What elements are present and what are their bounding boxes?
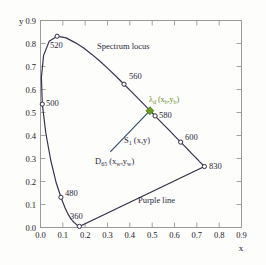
x-tick-label: 0.8 [214,230,225,240]
dominant-wavelength-label: λd (xb,yb) [149,95,180,105]
marker-580 [153,114,157,118]
d-coords-close: ) [131,156,134,166]
x-axis-ticks-top [63,21,219,26]
marker-520 [55,34,59,38]
y-tick-label: 0.6 [25,85,36,95]
x-tick-label: 0.0 [35,230,46,240]
lambda-coords-open: (x [158,95,165,104]
chart-canvas: 0.0 0.1 0.2 0.3 0.4 0.5 0.6 0.7 0.8 0.9 … [0,0,266,265]
y-tick-label: 0.3 [25,154,36,164]
x-tick-label: 0.6 [169,230,180,240]
x-tick-label: 0.2 [80,230,91,240]
marker-600 [179,140,183,144]
marker-480 [59,195,63,199]
y-tick-labels: 0.0 0.1 0.2 0.3 0.4 0.5 0.6 0.7 0.8 0.9 [25,16,36,233]
y-axis-title: y [19,16,24,26]
y-tick-label: 0.7 [25,62,36,72]
svg-text:D65 (xw,yw): D65 (xw,yw) [95,156,134,167]
svg-text:S1 (x,y): S1 (x,y) [124,135,150,146]
x-tick-label: 0.1 [57,230,68,240]
y-tick-label: 0.5 [25,108,36,118]
wavelength-label-600: 600 [185,132,198,142]
x-tick-label: 0.7 [191,230,202,240]
svg-text:λd (xb,yb): λd (xb,yb) [149,95,180,105]
x-axis-ticks [41,223,242,228]
wavelength-label-360: 360 [70,211,83,221]
s-coords: (x,y) [134,135,150,145]
locus-markers [40,34,206,228]
y-tick-label: 0.2 [25,177,36,187]
sample-point-label: S1 (x,y) [124,135,150,146]
wavelength-label-830: 830 [209,161,222,171]
wavelength-label-520: 520 [50,40,63,50]
y-tick-label: 0.1 [25,200,36,210]
marker-830 [202,164,206,168]
marker-560 [122,82,126,86]
y-tick-label: 0.9 [25,16,36,26]
x-tick-label: 0.9 [236,230,247,240]
y-tick-label: 0.8 [25,39,36,49]
x-axis-title: x [239,243,244,253]
wavelength-label-560: 560 [129,71,142,81]
x-tick-label: 0.3 [102,230,113,240]
chromaticity-diagram-figure: 0.0 0.1 0.2 0.3 0.4 0.5 0.6 0.7 0.8 0.9 … [0,0,266,265]
wavelength-label-480: 480 [65,188,78,198]
y-tick-label: 0.4 [25,131,36,141]
purple-line-label: Purple line [138,195,175,205]
spectrum-locus-label: Spectrum locus [97,41,150,51]
marker-500 [40,102,44,106]
x-tick-label: 0.4 [124,230,135,240]
white-point-label: D65 (xw,yw) [95,156,134,167]
y-tick-label: 0.0 [25,223,36,233]
x-tick-labels: 0.0 0.1 0.2 0.3 0.4 0.5 0.6 0.7 0.8 0.9 [35,230,247,240]
marker-360 [77,224,81,228]
y-axis-ticks-right [237,44,242,205]
lambda-coords-close: ) [177,95,180,104]
wavelength-label-500: 500 [46,98,59,108]
wavelength-label-580: 580 [159,110,172,120]
x-tick-label: 0.5 [147,230,158,240]
